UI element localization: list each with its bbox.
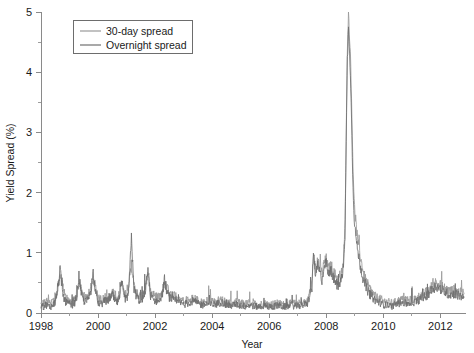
y-tick-label: 3	[26, 126, 32, 138]
x-tick-label: 2012	[428, 320, 452, 332]
y-tick-label: 4	[26, 66, 32, 78]
axes-group	[36, 12, 466, 318]
y-axis-title: Yield Spread (%)	[4, 124, 16, 203]
x-tick-label: 2008	[314, 320, 338, 332]
y-tick-label: 5	[26, 6, 32, 18]
chart-legend: 30-day spreadOvernight spread	[73, 20, 192, 53]
x-axis-title: Year	[241, 338, 263, 350]
tick-labels-group: 01234519982000200220042006200820102012	[26, 6, 453, 332]
x-tick-label: 2004	[200, 320, 224, 332]
x-tick-label: 2010	[371, 320, 395, 332]
y-tick-label: 1	[26, 247, 32, 259]
x-tick-label: 1998	[29, 320, 53, 332]
y-tick-label: 0	[26, 307, 32, 319]
x-tick-label: 2002	[143, 320, 167, 332]
series-line-overnight-spread	[41, 27, 464, 310]
data-series-group	[41, 12, 464, 310]
x-tick-label: 2000	[86, 320, 110, 332]
chart-figure: 01234519982000200220042006200820102012 3…	[0, 0, 474, 353]
legend-label-1: Overnight spread	[106, 39, 187, 51]
series-line-30-day-spread	[41, 12, 464, 308]
x-tick-label: 2006	[257, 320, 281, 332]
yield-spread-line-chart: 01234519982000200220042006200820102012 3…	[0, 0, 474, 353]
legend-label-0: 30-day spread	[106, 25, 173, 37]
y-tick-label: 2	[26, 187, 32, 199]
